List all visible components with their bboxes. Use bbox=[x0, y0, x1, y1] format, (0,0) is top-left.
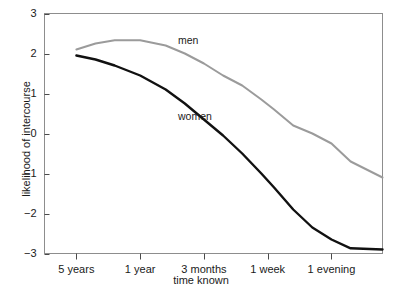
y-tick-label: 2 bbox=[9, 47, 37, 59]
y-tick-label: −3 bbox=[9, 247, 37, 259]
series-lines bbox=[76, 40, 382, 249]
y-tick-label: 0 bbox=[9, 127, 37, 139]
chart-plot-svg bbox=[0, 0, 402, 291]
x-tick-marks bbox=[77, 254, 332, 260]
y-tick-label: 3 bbox=[9, 7, 37, 19]
plot-frame bbox=[45, 14, 383, 254]
y-tick-label: −2 bbox=[9, 207, 37, 219]
series-line-men bbox=[76, 40, 382, 177]
y-tick-label: −1 bbox=[9, 167, 37, 179]
y-tick-marks bbox=[45, 15, 50, 255]
series-line-women bbox=[76, 56, 382, 250]
chart-figure: likelihood of intercourse time known 321… bbox=[0, 0, 402, 291]
y-tick-label: 1 bbox=[9, 87, 37, 99]
x-axis-title: time known bbox=[0, 274, 402, 286]
x-tick-label: 1 evening bbox=[291, 263, 371, 275]
series-label-women: women bbox=[178, 110, 212, 122]
series-label-men: men bbox=[178, 34, 198, 46]
